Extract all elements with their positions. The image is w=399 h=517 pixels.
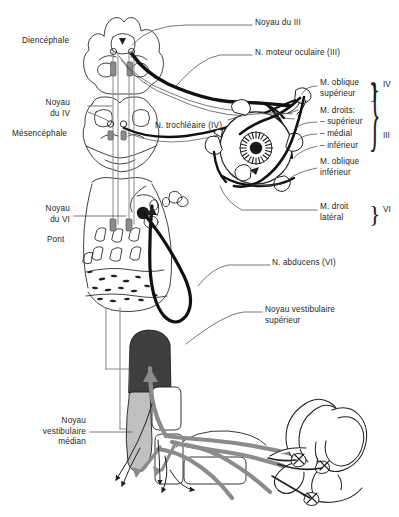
m-droit-inferieur-belly [235, 165, 251, 181]
m-droit-superieur-belly [231, 100, 250, 115]
label-n-moteur-oculaire: N. moteur oculaire (III) [255, 48, 340, 59]
label-m-droits: M. droits: [320, 106, 355, 117]
nerf-iii [132, 54, 290, 106]
label-m-droit-inferieur: – inférieur [320, 141, 358, 152]
anatomical-figure: Diencéphale Noyau du IV Mésencéphale Noy… [0, 0, 399, 517]
label-diencephale: Diencéphale [22, 36, 69, 47]
label-m-droit-lateral: M. droit latéral [320, 202, 349, 223]
label-m-oblique-superieur: M. oblique supérieur [320, 78, 359, 99]
label-m-oblique-inferieur: M. oblique inférieur [320, 157, 359, 178]
roman-numeral-iv: IV [383, 80, 391, 89]
roman-numeral-vi: VI [383, 205, 391, 214]
noyau-iii-blocks [111, 62, 133, 76]
brace-iii-symbol: } [369, 73, 381, 155]
label-m-droit-medial: – médial [320, 129, 352, 140]
pons-outline [83, 178, 188, 312]
label-noyau-vestibulaire-superieur: Noyau vestibulaire supérieur [265, 305, 335, 326]
brace-vi-symbol: } [369, 202, 381, 226]
label-noyau-du-vi: Noyau du VI [20, 204, 70, 225]
label-mesencephale: Mésencéphale [12, 129, 67, 140]
label-m-droit-superieur: – supérieur [320, 117, 363, 128]
label-noyau-du-iv: Noyau du IV [18, 98, 70, 119]
label-n-trochleaire: N. trochléaire (IV) [155, 121, 222, 132]
labyrinthe-osseux [270, 399, 367, 502]
label-pont: Pont [47, 235, 64, 246]
label-noyau-vestibulaire-median: Noyau vestibulaire médian [8, 416, 86, 448]
diencephalon-outline [84, 18, 164, 95]
label-noyau-du-iii: Noyau du III [255, 18, 301, 29]
roman-numeral-iii: III [383, 131, 390, 140]
label-n-abducens: N. abducens (VI) [272, 258, 336, 269]
